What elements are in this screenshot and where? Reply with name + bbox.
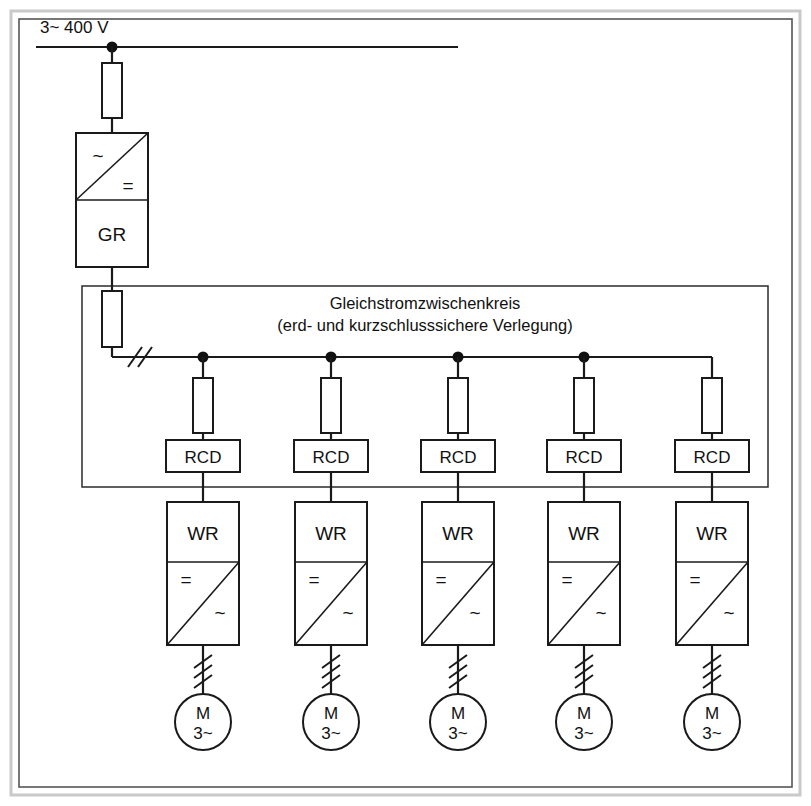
rcd-label-2: RCD — [313, 448, 350, 467]
inverter-dc-symbol-5: = — [689, 569, 700, 590]
rcd-label-5: RCD — [694, 448, 731, 467]
inverter-block-wr-1: WR = ~ — [167, 502, 239, 645]
rcd-label-3: RCD — [440, 448, 477, 467]
motor-5: M 3~ — [684, 694, 740, 750]
schematic-canvas: 3~ 400 V ~ = GR Gleichstromzwischenkreis… — [0, 0, 811, 806]
inverter-ac-symbol-5: ~ — [723, 602, 734, 623]
rcd-label-1: RCD — [185, 448, 222, 467]
branch-fuse-5 — [702, 357, 722, 440]
inverter-block-wr-5: WR = ~ — [676, 502, 748, 645]
branch-fuse-1 — [193, 357, 213, 440]
inverter-dc-symbol-4: = — [561, 569, 572, 590]
rectifier-ac-symbol: ~ — [92, 145, 103, 166]
branch-fuse-2 — [321, 357, 341, 440]
drive-branch-2: RCD WR = ~ M 3~ — [294, 357, 368, 750]
branch-fuse-4 — [574, 357, 594, 440]
rcd-1: RCD — [166, 440, 240, 472]
rcd-4: RCD — [547, 440, 621, 472]
inverter-block-wr-4: WR = ~ — [548, 502, 620, 645]
inverter-ac-symbol-4: ~ — [595, 602, 606, 623]
dc-link-title-line1: Gleichstromzwischenkreis — [330, 294, 521, 312]
rectifier-label: GR — [98, 224, 127, 245]
motor-phases-2: 3~ — [321, 724, 340, 743]
motor-symbol-5: M — [705, 704, 719, 723]
schematic-diagram: 3~ 400 V ~ = GR Gleichstromzwischenkreis… — [0, 0, 811, 806]
supply-fuse — [102, 47, 122, 133]
motor-symbol-3: M — [451, 704, 465, 723]
dc-link-input-fuse — [102, 267, 122, 357]
inverter-block-wr-3: WR = ~ — [422, 502, 494, 645]
inverter-label-1: WR — [187, 523, 219, 544]
supply-voltage-label: 3~ 400 V — [40, 18, 109, 37]
motor-4: M 3~ — [556, 694, 612, 750]
inverter-ac-symbol-3: ~ — [469, 602, 480, 623]
rcd-label-4: RCD — [566, 448, 603, 467]
drive-branch-5: RCD WR = ~ M 3~ — [675, 357, 749, 750]
motor-phases-4: 3~ — [574, 724, 593, 743]
inverter-dc-symbol-1: = — [180, 569, 191, 590]
inverter-dc-symbol-3: = — [435, 569, 446, 590]
drive-branch-3: RCD WR = ~ M 3~ — [421, 357, 495, 750]
rectifier-block-gr: ~ = GR — [76, 133, 148, 267]
motor-1: M 3~ — [175, 694, 231, 750]
motor-phases-5: 3~ — [702, 724, 721, 743]
rcd-3: RCD — [421, 440, 495, 472]
motor-phases-3: 3~ — [448, 724, 467, 743]
motor-symbol-4: M — [577, 704, 591, 723]
drive-branch-4: RCD WR = ~ M 3~ — [547, 357, 621, 750]
rectifier-dc-symbol: = — [122, 175, 133, 196]
dc-link-title-line2: (erd- und kurzschlusssichere Verlegung) — [277, 316, 572, 334]
rcd-2: RCD — [294, 440, 368, 472]
inverter-label-3: WR — [442, 523, 474, 544]
motor-symbol-1: M — [196, 704, 210, 723]
outer-frame — [11, 11, 800, 795]
inverter-block-wr-2: WR = ~ — [295, 502, 367, 645]
motor-phases-1: 3~ — [193, 724, 212, 743]
inverter-label-2: WR — [315, 523, 347, 544]
motor-2: M 3~ — [303, 694, 359, 750]
inverter-label-5: WR — [696, 523, 728, 544]
motor-symbol-2: M — [324, 704, 338, 723]
rcd-5: RCD — [675, 440, 749, 472]
inverter-label-4: WR — [568, 523, 600, 544]
motor-3: M 3~ — [430, 694, 486, 750]
branch-fuse-3 — [448, 357, 468, 440]
inverter-dc-symbol-2: = — [308, 569, 319, 590]
inverter-ac-symbol-2: ~ — [342, 602, 353, 623]
drive-branch-1: RCD WR = ~ M 3~ — [166, 357, 240, 750]
inverter-ac-symbol-1: ~ — [214, 602, 225, 623]
